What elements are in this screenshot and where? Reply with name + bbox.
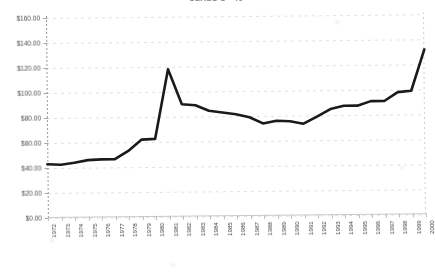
x-axis-tick-label: 1973 [64, 224, 71, 238]
x-axis-tick-label: 1980 [158, 223, 165, 237]
x-axis-tick-label: 1977 [118, 223, 125, 237]
x-axis-tick-label: 1976 [104, 223, 111, 237]
x-axis-tick-label: 1997 [388, 221, 395, 235]
y-axis-tick-label: $80.00 [21, 115, 41, 122]
y-axis-tick-label: $160.00 [16, 15, 40, 22]
x-axis-tick-label: 1983 [199, 222, 206, 236]
y-axis-tick-label: $140.00 [17, 40, 41, 47]
x-axis-tick-label: 1975 [91, 224, 98, 238]
y-axis-tick-label: $40.00 [22, 165, 42, 172]
plot-area-wrapper: $0.00$20.00$40.00$60.00$80.00$100.00$120… [46, 14, 426, 218]
x-axis-tick-label: 1972 [50, 224, 57, 238]
x-axis-tick-label: 1979 [145, 223, 152, 237]
y-axis-tick-label: $20.00 [22, 190, 42, 197]
data-series-svg [46, 14, 426, 218]
x-axis-tick-label: 1995 [361, 221, 368, 235]
x-axis-tick-label: 1987 [253, 222, 260, 236]
x-axis-tick-label: 1996 [374, 221, 381, 235]
x-axis-tick-label: 2000 [428, 220, 435, 234]
chart-title: CLASS 1 - 40 [0, 0, 432, 3]
x-axis-tick-label: 1978 [131, 223, 138, 237]
x-axis-tick-label: 1982 [185, 223, 192, 237]
x-axis-tick-label: 1974 [77, 224, 84, 238]
x-axis-tick-label: 1986 [239, 222, 246, 236]
x-axis-tick-label: 1985 [226, 222, 233, 236]
y-axis-tick-label: $60.00 [21, 140, 41, 147]
x-axis-tick-label: 1992 [320, 221, 327, 235]
x-tick [426, 213, 427, 217]
x-axis-tick-label: 1999 [415, 220, 422, 234]
series-line-class-1-40 [46, 49, 425, 165]
x-axis-tick-label: 1991 [307, 221, 314, 235]
x-axis-tick-label: 1988 [266, 222, 273, 236]
y-axis-tick-label: $120.00 [17, 65, 41, 72]
x-axis-tick-label: 1989 [280, 222, 287, 236]
y-axis-tick-label: $0.00 [26, 215, 42, 222]
x-axis-tick-label: 1984 [212, 222, 219, 236]
y-axis-tick-label: $100.00 [17, 90, 41, 97]
x-axis-tick-label: 1993 [334, 221, 341, 235]
x-axis-tick-label: 1990 [293, 222, 300, 236]
x-axis-tick-label: 1981 [172, 223, 179, 237]
x-axis-tick-label: 1998 [401, 221, 408, 235]
x-axis-tick-label: 1994 [347, 221, 354, 235]
